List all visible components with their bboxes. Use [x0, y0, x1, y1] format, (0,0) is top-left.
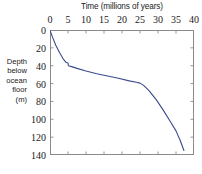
x-tick-label: 20 — [117, 14, 127, 25]
y-tick-label: 120 — [31, 132, 46, 143]
x-tick-label: 25 — [135, 14, 145, 25]
y-tick-label: 20 — [36, 42, 46, 53]
y-axis-title-line: (m) — [0, 95, 27, 104]
x-tick-label: 30 — [153, 14, 163, 25]
y-tick-label: 60 — [36, 78, 46, 89]
data-line-series — [50, 30, 184, 150]
y-tick-label: 40 — [36, 60, 46, 71]
plot-frame — [51, 31, 194, 155]
y-axis-title-line: ocean — [0, 76, 27, 85]
plot-svg — [50, 30, 194, 155]
x-tick-label: 10 — [81, 14, 91, 25]
x-axis-title: Time (millions of years) — [50, 2, 194, 11]
sediment-depth-chart: Time (millions of years) 051015202530354… — [0, 0, 202, 174]
y-axis-title-line: floor — [0, 85, 27, 94]
y-tick-label: 80 — [36, 96, 46, 107]
y-tick-label: 0 — [41, 25, 46, 36]
axis-ticks — [51, 31, 194, 155]
y-tick-label: 140 — [31, 150, 46, 161]
y-axis-title-line: below — [0, 66, 27, 75]
plot-area — [50, 30, 194, 155]
x-tick-label: 40 — [189, 14, 199, 25]
x-tick-label: 15 — [99, 14, 109, 25]
y-axis-title-line: Depth — [0, 57, 27, 66]
x-tick-label: 35 — [171, 14, 181, 25]
y-axis-title: Depthbelowoceanfloor(m) — [0, 57, 27, 104]
x-tick-label: 5 — [66, 14, 71, 25]
y-tick-label: 100 — [31, 114, 46, 125]
